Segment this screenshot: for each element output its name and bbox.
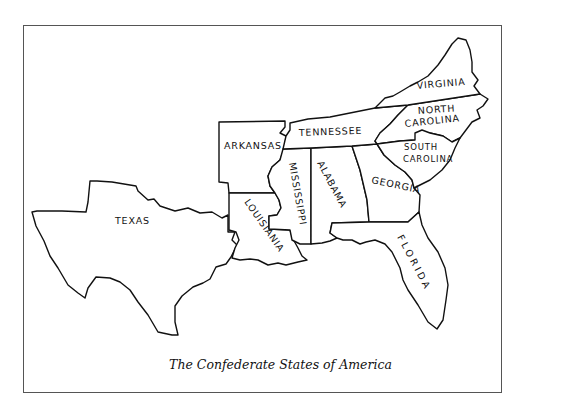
label-south-carolina-line1: SOUTH [404,142,438,152]
confederate-states-map: TEXAS ARKANSAS LOUISIANIA MISSISSIPPI AL… [0,0,561,414]
state-florida [330,212,448,329]
label-arkansas: ARKANSAS [224,140,282,151]
label-texas: TEXAS [114,215,150,226]
label-south-carolina-line2: CAROLINA [403,154,453,164]
state-texas [32,181,237,335]
map-caption: The Confederate States of America [0,357,561,372]
label-tennessee: TENNESSEE [298,125,363,138]
